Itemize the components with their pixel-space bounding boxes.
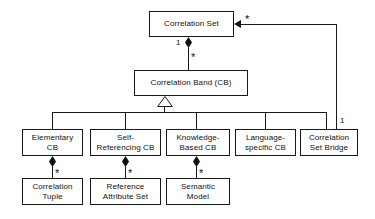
class-box-knowledge-based-cb[interactable]: Knowledge- Based CB [166,129,230,156]
class-label-language-specific-cb: Language- specific CB [245,133,286,153]
generalization-triangle [157,96,173,107]
uml-class-diagram: Correlation Set 1 * Correlation Band (CB… [0,0,375,219]
multiplicity-selfref-refattr: * [128,169,132,177]
class-label-semantic-model: Semantic Model [181,182,215,202]
multiplicity-elementary-tuple: * [55,169,59,177]
class-box-self-referencing-cb[interactable]: Self- Referencing CB [90,129,161,156]
association-line-bridge-vertical [336,24,337,129]
generalization-drop-correlation-set-bridge [326,112,327,129]
class-label-self-referencing-cb: Self- Referencing CB [97,133,155,153]
composition-line-set-band [188,46,189,70]
class-box-reference-attribute-set[interactable]: Reference Attribute Set [90,178,161,205]
composition-line-knowledge-semantic [196,165,197,178]
multiplicity-knowledge-semantic: * [199,169,203,177]
class-label-knowledge-based-cb: Knowledge- Based CB [176,133,219,153]
multiplicity-bridge-to-set-target: * [245,15,249,23]
generalization-drop-knowledge-based [196,112,197,129]
class-label-correlation-set-bridge: Correlation Set Bridge [309,133,349,153]
class-box-correlation-band[interactable]: Correlation Band (CB) [134,70,248,96]
multiplicity-set-band-parent: 1 [176,39,180,47]
generalization-drop-self-referencing [125,112,126,129]
composition-line-elementary-tuple [52,165,53,178]
association-line-bridge-horizontal [241,24,337,25]
generalization-bus [52,112,326,113]
generalization-drop-elementary [52,112,53,129]
multiplicity-bridge-to-set-source: 1 [340,117,344,125]
class-box-language-specific-cb[interactable]: Language- specific CB [235,129,296,156]
class-label-correlation-tuple: Correlation Tuple [32,182,72,202]
class-box-correlation-set-bridge[interactable]: Correlation Set Bridge [300,129,358,156]
association-arrowhead-to-correlation-set [234,20,241,28]
class-box-semantic-model[interactable]: Semantic Model [166,178,230,205]
class-label-reference-attribute-set: Reference Attribute Set [103,182,148,202]
class-box-elementary-cb[interactable]: Elementary CB [22,129,83,156]
class-label-correlation-set: Correlation Set [164,19,219,29]
class-box-correlation-set[interactable]: Correlation Set [149,11,234,37]
class-label-correlation-band: Correlation Band (CB) [151,78,232,88]
generalization-drop-language-specific [265,112,266,129]
multiplicity-set-band-child: * [191,53,195,61]
composition-line-selfref-refattr [125,165,126,178]
class-label-elementary-cb: Elementary CB [32,133,73,153]
class-box-correlation-tuple[interactable]: Correlation Tuple [22,178,83,205]
